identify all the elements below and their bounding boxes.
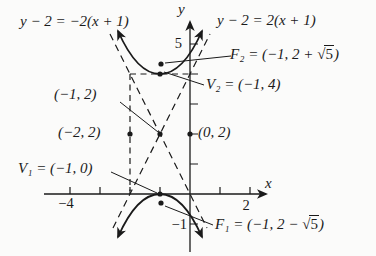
dot-vertex-2 xyxy=(157,71,162,76)
dot-focus-1 xyxy=(158,200,163,205)
asymptote-falling-line xyxy=(110,34,207,228)
dot-focus-2 xyxy=(158,61,163,66)
focus-1-label-pre: F₁ = (−1, 2 − xyxy=(215,216,302,232)
x-axis-label: x xyxy=(265,176,272,192)
focus-2-radicand: 5 xyxy=(324,45,334,62)
focus-1-label-post: ) xyxy=(319,216,324,232)
hyperbola-figure: y − 2 = −2(x + 1) y − 2 = 2(x + 1) F₂ = … xyxy=(0,0,376,256)
focus-2-label-post: ) xyxy=(334,46,339,62)
box-right-point-label: (0, 2) xyxy=(198,125,231,141)
center-point-label: (−1, 2) xyxy=(54,87,97,103)
y-axis-label: y xyxy=(178,2,185,18)
y-axis-tick-label-5: 5 xyxy=(166,36,182,51)
hyperbola-lower-left-arm xyxy=(118,194,160,237)
dot-box-left xyxy=(127,131,132,136)
leader-vertex-1 xyxy=(111,172,157,193)
focus-2-label: F₂ = (−1, 2 + √5) xyxy=(230,47,339,63)
dot-vertex-1 xyxy=(157,191,162,196)
leader-focus-2 xyxy=(165,56,231,63)
focus-2-label-pre: F₂ = (−1, 2 + xyxy=(230,46,317,62)
y-axis-tick-label-neg1: −1 xyxy=(161,217,187,232)
dot-center xyxy=(157,131,162,136)
leader-center-point xyxy=(120,102,158,132)
vertex-1-label: V₁ = (−1, 0) xyxy=(18,161,93,177)
x-axis-tick-label-2: 2 xyxy=(239,198,253,213)
hyperbola-upper-left-arm xyxy=(118,31,160,74)
x-axis-tick-label-neg4: −4 xyxy=(52,196,80,211)
right-asymptote-equation: y − 2 = 2(x + 1) xyxy=(217,13,316,29)
focus-1-radicand: 5 xyxy=(309,215,319,232)
vertex-2-label: V₂ = (−1, 4) xyxy=(206,77,281,93)
dot-box-right xyxy=(187,131,192,136)
focus-1-label: F₁ = (−1, 2 − √5) xyxy=(215,217,324,233)
left-asymptote-equation: y − 2 = −2(x + 1) xyxy=(20,14,129,30)
box-left-point-label: (−2, 2) xyxy=(58,125,101,141)
